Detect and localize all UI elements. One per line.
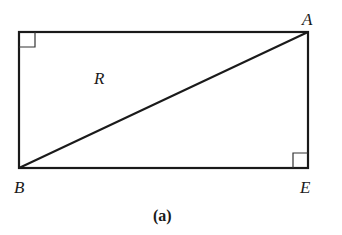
figure-caption: (a) <box>153 207 172 225</box>
label-B: B <box>14 178 25 197</box>
diagram-canvas: A R B E (a) <box>0 0 342 235</box>
label-E: E <box>299 178 311 197</box>
right-angle-mark-E <box>293 153 308 168</box>
diagonal-BA <box>19 32 308 168</box>
label-A: A <box>301 10 313 29</box>
right-angle-mark-top-left <box>19 32 35 47</box>
label-R: R <box>93 69 105 88</box>
